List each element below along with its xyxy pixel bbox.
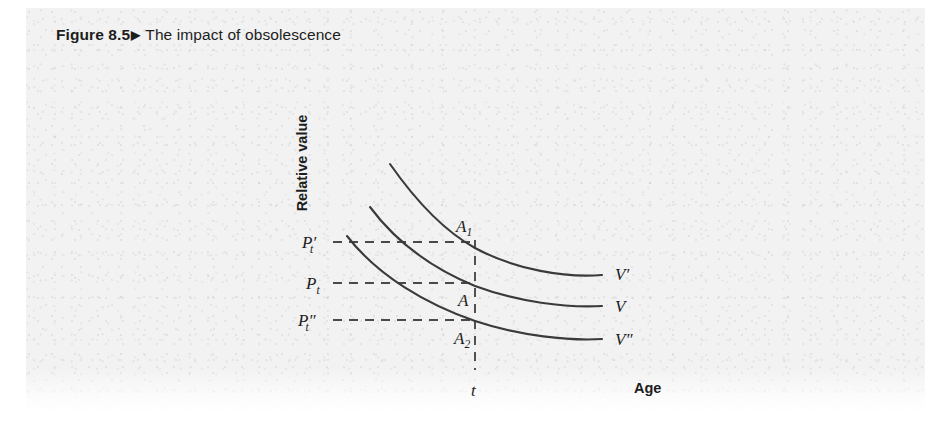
curve-label-v-prime: V′	[615, 265, 629, 284]
curve-label-v: V	[615, 297, 628, 316]
curve-v-prime	[390, 164, 602, 276]
figure-caption: Figure 8.5▶The impact of obsolescence	[56, 26, 341, 44]
x-axis-title: Age	[634, 380, 661, 396]
x-tick-label-t: t	[471, 381, 477, 400]
annotation-a1: A1	[455, 217, 472, 238]
y-tick-label-p-prime-t: P′t	[301, 233, 316, 255]
figure-number: Figure 8.5	[56, 26, 130, 43]
scanned-page-panel: Figure 8.5▶The impact of obsolescence Re…	[26, 8, 925, 414]
y-tick-label-p-double-prime-t: P″t	[297, 311, 316, 333]
chart-area: Relative value Age V′ V V″ P′t	[26, 8, 925, 414]
annotation-a2: A2	[453, 329, 470, 350]
y-axis-title: Relative value	[294, 115, 310, 212]
curve-label-v-double-prime: V″	[615, 330, 633, 349]
y-tick-label-p-t: Pt	[305, 274, 320, 296]
figure-title: The impact of obsolescence	[145, 26, 341, 43]
figure-page: Figure 8.5▶The impact of obsolescence Re…	[0, 0, 947, 434]
curve-v	[370, 207, 602, 306]
triangle-marker-icon: ▶	[131, 28, 140, 42]
annotation-a: A	[457, 291, 469, 310]
obsolescence-line-chart: Relative value Age V′ V V″ P′t	[26, 8, 925, 414]
